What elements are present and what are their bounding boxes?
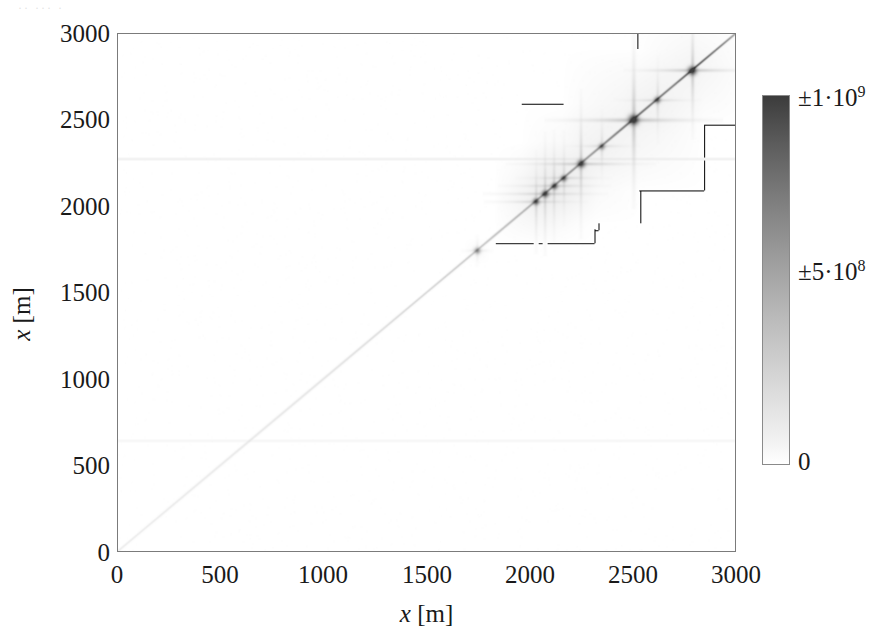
x-tick-label: 500 [160,562,280,587]
y-axis-title-unit: [m] [8,287,35,323]
colorbar-label-mid-mantissa: ±5·10 [798,258,858,285]
y-tick-label: 2000 [38,194,110,219]
y-tick-label: 3000 [38,21,110,46]
x-axis-title-unit: [m] [417,600,453,627]
y-axis-title-variable: x [8,330,35,341]
colorbar-label-max-exponent: 9 [858,83,866,100]
x-axis-title-variable: x [400,600,411,627]
x-tick-label: 2500 [573,562,693,587]
plot-area [117,33,736,552]
covariance-matrix-heatmap [118,34,735,551]
x-axis-title: x [m] [117,600,736,628]
figure-container: ·· ··· · 3000 2500 2000 1500 1000 500 0 … [0,0,888,642]
colorbar-label-min: 0 [798,449,811,474]
x-axis-tick-labels: 0 500 1000 1500 2000 2500 3000 [0,562,888,596]
colorbar-label-max-mantissa: ±1·10 [798,84,858,111]
colorbar-label-max: ±1·109 [798,84,866,110]
y-tick-label: 2500 [38,107,110,132]
y-axis-tick-labels: 3000 2500 2000 1500 1000 500 0 [32,0,110,642]
y-tick-label: 500 [38,453,110,478]
colorbar-gradient-strip [762,95,790,465]
y-tick-label: 0 [38,540,110,565]
colorbar-label-mid-exponent: 8 [858,257,866,274]
x-tick-label: 1500 [367,562,487,587]
colorbar-label-mid: ±5·108 [798,258,866,284]
y-tick-label: 1000 [38,367,110,392]
y-axis-title: x [m] [8,254,36,374]
y-tick-label: 1500 [38,280,110,305]
x-tick-label: 2000 [470,562,590,587]
x-tick-label: 3000 [676,562,796,587]
x-tick-label: 0 [57,562,177,587]
x-tick-label: 1000 [263,562,383,587]
colorbar: ±1·109 ±5·108 0 [762,95,888,475]
